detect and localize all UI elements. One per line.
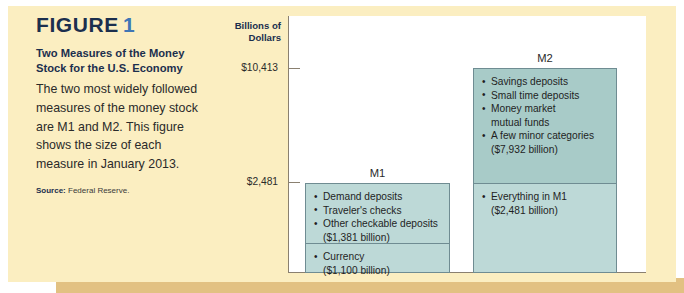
- figure-caption: FIGURE1 Two Measures of the Money Stock …: [36, 14, 234, 197]
- y-tick-mark-top: [289, 68, 300, 69]
- segment-amount: ($1,100 billion): [314, 264, 443, 278]
- bar-label-m1: M1: [305, 167, 450, 179]
- list-item: Demand deposits: [314, 190, 443, 204]
- list-item: Money market mutual funds: [482, 102, 610, 129]
- segment-item-list: Demand deposits Traveler's checks Other …: [306, 184, 449, 244]
- segment-item-list: Everything in M1 ($2,481 billion): [474, 184, 616, 217]
- figure-heading: FIGURE1: [36, 14, 234, 35]
- y-tick-label-top: $10,413: [208, 62, 278, 73]
- figure-label: FIGURE: [36, 13, 119, 36]
- source-label: Source:: [36, 186, 66, 195]
- y-tick-mark-mid: [289, 182, 300, 183]
- bar-segment-m2-other: Savings deposits Small time deposits Mon…: [474, 69, 616, 183]
- bar-label-m2: M2: [473, 52, 617, 64]
- list-item: Small time deposits: [482, 89, 610, 103]
- list-item: A few minor categories: [482, 129, 610, 143]
- figure-source: Source: Federal Reserve.: [36, 186, 234, 196]
- list-item: Savings deposits: [482, 75, 610, 89]
- bar-segment-m1-deposits: Demand deposits Traveler's checks Other …: [306, 184, 449, 243]
- source-text: Federal Reserve.: [68, 186, 129, 195]
- bar-segment-m2-m1: Everything in M1 ($2,481 billion): [474, 183, 616, 274]
- segment-item-list: Currency ($1,100 billion): [306, 244, 449, 277]
- segment-item-list: Savings deposits Small time deposits Mon…: [474, 69, 616, 156]
- segment-amount: ($7,932 billion): [482, 143, 610, 157]
- figure-body-text: The two most widely followed measures of…: [36, 80, 204, 174]
- bar-m1[interactable]: Demand deposits Traveler's checks Other …: [305, 183, 450, 273]
- list-item: Traveler's checks: [314, 204, 443, 218]
- y-axis-title: Billions of Dollars: [213, 20, 281, 45]
- list-item: Everything in M1: [482, 190, 610, 204]
- segment-amount: ($2,481 billion): [482, 204, 610, 218]
- bar-segment-m1-currency: Currency ($1,100 billion): [306, 243, 449, 274]
- figure-root: FIGURE1 Two Measures of the Money Stock …: [0, 0, 684, 293]
- figure-number: 1: [123, 13, 135, 36]
- y-tick-label-mid: $2,481: [208, 176, 278, 187]
- bar-m2[interactable]: Savings deposits Small time deposits Mon…: [473, 68, 617, 273]
- list-item: Currency: [314, 250, 443, 264]
- list-item: Other checkable deposits: [314, 217, 443, 231]
- figure-subtitle: Two Measures of the Money Stock for the …: [36, 46, 212, 77]
- y-axis-line: [288, 16, 289, 273]
